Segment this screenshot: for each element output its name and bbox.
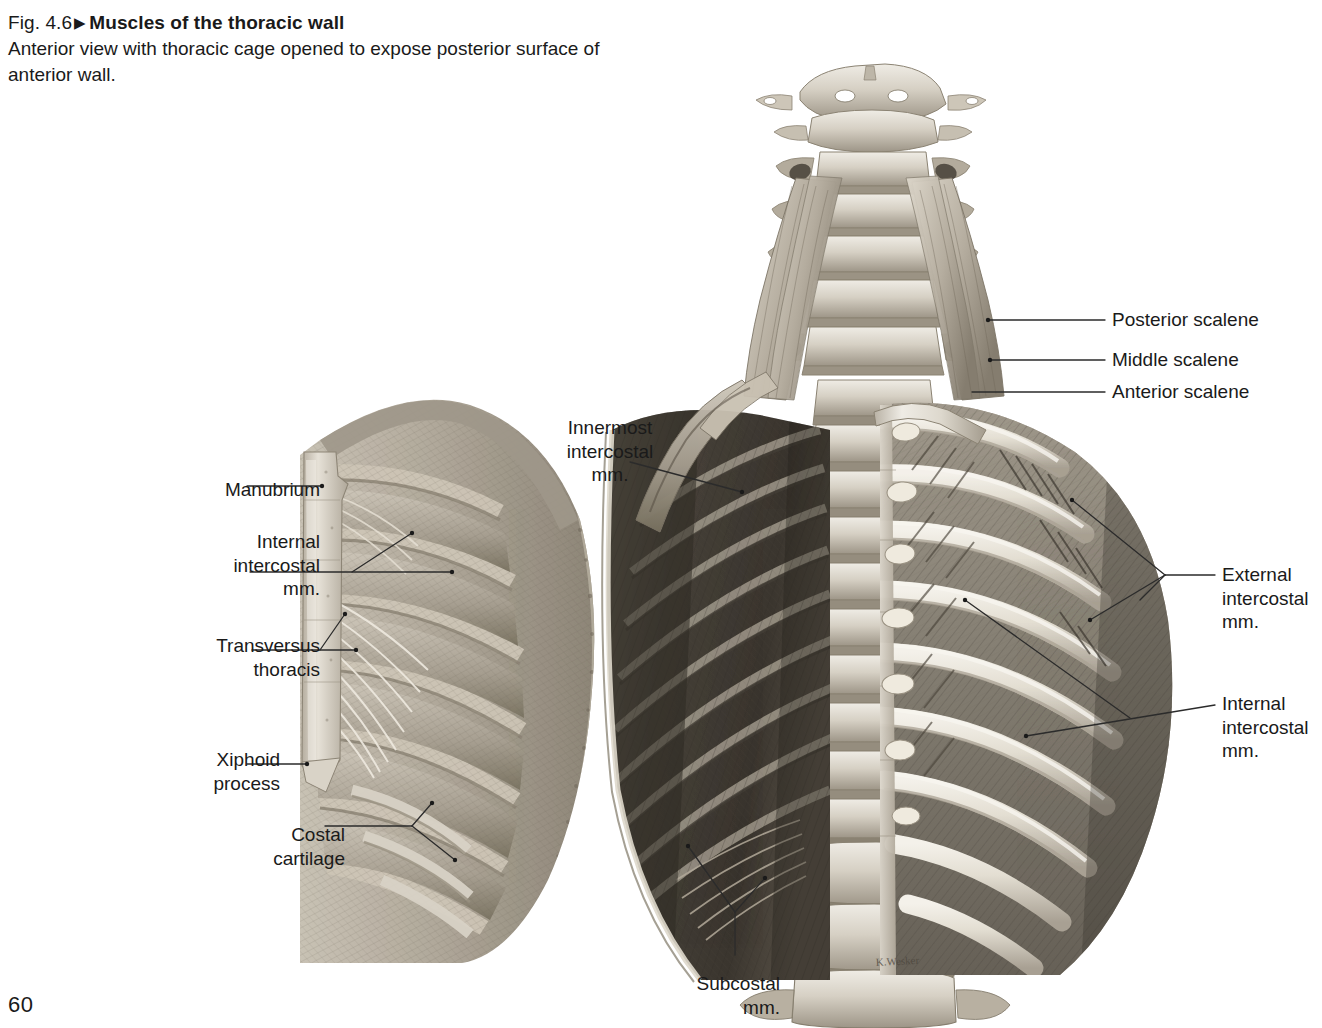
illustrator-signature: K.Wesker [875, 954, 919, 968]
anatomy-illustration: K.Wesker [0, 0, 1322, 1028]
page-number: 60 [8, 992, 33, 1018]
label-manubrium: Manubrium [155, 478, 320, 502]
label-costal-cartilage: Costal cartilage [215, 823, 345, 870]
label-internal-intercostal-left: Internal intercostal mm. [155, 530, 320, 601]
label-posterior-scalene: Posterior scalene [1112, 308, 1312, 332]
label-innermost-intercostal: Innermost intercostal mm. [520, 416, 700, 487]
right-rib-cage [860, 390, 1200, 990]
label-subcostal: Subcostal mm. [655, 972, 780, 1019]
label-external-intercostal-right: External intercostal mm. [1222, 563, 1322, 634]
label-middle-scalene: Middle scalene [1112, 348, 1312, 372]
label-transversus-thoracis: Transversus thoracis [145, 634, 320, 681]
label-internal-intercostal-right: Internal intercostal mm. [1222, 692, 1322, 763]
label-xiphoid-process: Xiphoid process [155, 748, 280, 795]
posterior-rib-cage-interior [600, 400, 850, 1000]
figure-root: Fig. 4.6▶Muscles of the thoracic wall An… [0, 0, 1322, 1028]
label-anterior-scalene: Anterior scalene [1112, 380, 1312, 404]
